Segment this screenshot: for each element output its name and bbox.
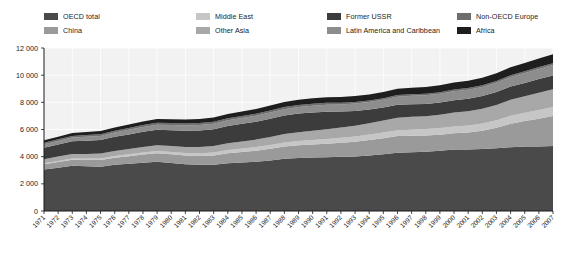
- y-tick-label: 8 000: [20, 98, 38, 107]
- x-tick-label: 1975: [87, 214, 103, 230]
- legend-item-label: Non-OECD Europe: [476, 12, 538, 21]
- x-tick-label: 1978: [130, 214, 146, 230]
- x-tick-label: 1999: [427, 214, 443, 230]
- legend-item-china[interactable]: China: [44, 25, 82, 36]
- chart-screenshot: OECD totalChinaMiddle EastOther AsiaForm…: [0, 0, 569, 260]
- x-tick-label: 1987: [257, 214, 273, 230]
- legend-item-latin-america-and-caribbean[interactable]: Latin America and Caribbean: [327, 25, 440, 36]
- y-tick-label: 6 000: [20, 125, 38, 134]
- legend-swatch-icon: [457, 27, 471, 34]
- x-tick-label: 1983: [201, 214, 217, 230]
- x-tick-label: 2003: [483, 214, 499, 230]
- legend-swatch-icon: [457, 13, 471, 20]
- legend-swatch-icon: [327, 13, 341, 20]
- legend-item-middle-east[interactable]: Middle East: [196, 11, 253, 22]
- x-tick-label: 2002: [469, 214, 485, 230]
- x-tick-label: 1995: [370, 214, 386, 230]
- x-tick-label: 1982: [186, 214, 202, 230]
- x-tick-label: 2006: [526, 214, 542, 230]
- legend-item-former-ussr[interactable]: Former USSR: [327, 11, 392, 22]
- x-tick-label: 1981: [172, 214, 188, 230]
- chart-plot-area: 02 0004 0006 0008 00010 00012 0001971197…: [0, 40, 569, 260]
- y-tick-label: 2 000: [20, 179, 38, 188]
- legend-swatch-icon: [44, 13, 58, 20]
- x-tick-label: 1971: [31, 214, 47, 230]
- legend-swatch-icon: [44, 27, 58, 34]
- legend-item-label: OECD total: [63, 12, 100, 21]
- x-tick-label: 1996: [384, 214, 400, 230]
- legend-item-africa[interactable]: Africa: [457, 25, 495, 36]
- x-tick-label: 1991: [314, 214, 330, 230]
- legend-item-label: Africa: [476, 26, 495, 35]
- legend-item-other-asia[interactable]: Other Asia: [196, 25, 249, 36]
- x-tick-label: 1980: [158, 214, 174, 230]
- legend-swatch-icon: [196, 13, 210, 20]
- y-tick-label: 0: [34, 207, 38, 216]
- x-tick-label: 1976: [102, 214, 118, 230]
- chart-legend: OECD totalChinaMiddle EastOther AsiaForm…: [0, 0, 569, 40]
- x-tick-label: 1988: [271, 214, 287, 230]
- x-tick-label: 1977: [116, 214, 132, 230]
- x-tick-label: 1994: [356, 214, 372, 230]
- legend-item-label: China: [63, 26, 82, 35]
- legend-item-oecd-total[interactable]: OECD total: [44, 11, 100, 22]
- x-tick-label: 1992: [328, 214, 344, 230]
- x-tick-label: 2001: [455, 214, 471, 230]
- legend-swatch-icon: [327, 27, 341, 34]
- x-tick-label: 1986: [243, 214, 259, 230]
- x-tick-label: 1973: [59, 214, 75, 230]
- x-tick-label: 2007: [540, 214, 556, 230]
- x-tick-label: 1974: [73, 214, 89, 230]
- x-tick-label: 1985: [229, 214, 245, 230]
- x-tick-label: 2004: [497, 214, 513, 230]
- x-tick-label: 2000: [441, 214, 457, 230]
- x-tick-label: 1997: [398, 214, 414, 230]
- legend-item-label: Middle East: [215, 12, 253, 21]
- y-tick-label: 10 000: [16, 71, 38, 80]
- legend-swatch-icon: [196, 27, 210, 34]
- x-tick-label: 1979: [144, 214, 160, 230]
- legend-item-label: Latin America and Caribbean: [346, 26, 440, 35]
- x-tick-label: 1993: [342, 214, 358, 230]
- legend-item-label: Former USSR: [346, 12, 392, 21]
- x-tick-label: 1998: [413, 214, 429, 230]
- x-tick-label: 2005: [512, 214, 528, 230]
- y-tick-label: 4 000: [20, 152, 38, 161]
- stacked-area-chart: 02 0004 0006 0008 00010 00012 0001971197…: [0, 40, 569, 260]
- legend-item-non-oecd-europe[interactable]: Non-OECD Europe: [457, 11, 538, 22]
- x-tick-label: 1990: [300, 214, 316, 230]
- y-tick-label: 12 000: [16, 44, 38, 53]
- legend-item-label: Other Asia: [215, 26, 249, 35]
- x-tick-label: 1984: [215, 214, 231, 230]
- x-tick-label: 1989: [285, 214, 301, 230]
- x-tick-label: 1972: [45, 214, 61, 230]
